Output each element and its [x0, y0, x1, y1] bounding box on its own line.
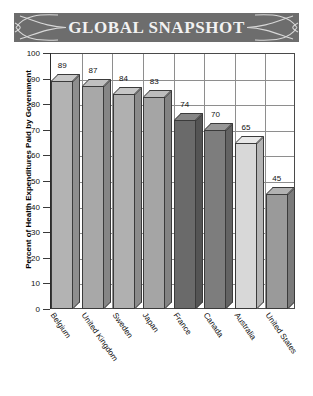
x-axis-label: Belgium — [49, 311, 73, 340]
bar-side-face — [196, 113, 203, 309]
bar[interactable]: 65 — [235, 143, 257, 309]
y-tick-label: 10 — [16, 279, 40, 288]
y-tick-label: 80 — [16, 100, 40, 109]
x-axis-labels: BelgiumUnited KingdomSwedenJapanFranceCa… — [50, 311, 300, 396]
y-tick-label: 30 — [16, 228, 40, 237]
bar-front-face — [113, 94, 135, 309]
bar-front-face — [235, 143, 257, 309]
y-tick-mark — [43, 104, 50, 105]
bar-side-face — [288, 187, 295, 309]
bar-value-label: 84 — [119, 74, 128, 83]
bar[interactable]: 70 — [204, 130, 226, 309]
y-tick-label: 50 — [16, 177, 40, 186]
chart-container: Percent of Health Expenditures Paid by G… — [0, 47, 313, 396]
bar-front-face — [266, 194, 288, 309]
y-tick-mark — [43, 232, 50, 233]
bar-value-label: 70 — [211, 110, 220, 119]
bar-value-label: 45 — [272, 174, 281, 183]
y-tick-mark — [43, 181, 50, 182]
y-tick-mark — [43, 79, 50, 80]
x-axis-label: Japan — [141, 311, 161, 334]
bar[interactable]: 87 — [82, 86, 104, 309]
bar-front-face — [143, 97, 165, 309]
y-tick-mark — [43, 130, 50, 131]
bar[interactable]: 83 — [143, 97, 165, 309]
bar-series: 8987848374706545 — [50, 53, 295, 309]
global-snapshot-chart-page: GLOBAL SNAPSHOT Percent of Health Expend… — [0, 0, 313, 396]
bar[interactable]: 84 — [113, 94, 135, 309]
bar[interactable]: 89 — [51, 81, 73, 309]
y-tick-mark — [43, 283, 50, 284]
y-tick-label: 100 — [16, 49, 40, 58]
bar-front-face — [82, 86, 104, 309]
x-axis-label: Sweden — [110, 311, 134, 340]
y-tick-mark — [43, 258, 50, 259]
y-tick-label: 40 — [16, 202, 40, 211]
bar-side-face — [165, 90, 172, 309]
y-axis-tick-labels: 100 90 80 70 60 50 40 30 20 10 0 — [12, 53, 40, 309]
x-axis-label: United States — [263, 311, 298, 356]
bar-front-face — [204, 130, 226, 309]
bar-value-label: 87 — [88, 66, 97, 75]
bar-side-face — [73, 74, 80, 309]
x-axis-label: Australia — [233, 311, 258, 342]
bar-value-label: 83 — [150, 77, 159, 86]
bar-front-face — [51, 81, 73, 309]
y-tick-label: 0 — [16, 305, 40, 314]
bar-value-label: 89 — [58, 61, 67, 70]
banner-header: GLOBAL SNAPSHOT — [14, 13, 299, 42]
y-tick-label: 20 — [16, 253, 40, 262]
y-tick-mark — [43, 207, 50, 208]
bar-value-label: 65 — [242, 123, 251, 132]
bar-front-face — [174, 120, 196, 309]
bar-side-face — [226, 123, 233, 309]
y-tick-label: 70 — [16, 125, 40, 134]
bar-side-face — [135, 87, 142, 309]
y-tick-label: 60 — [16, 151, 40, 160]
bar[interactable]: 45 — [266, 194, 288, 309]
bar-side-face — [257, 136, 264, 309]
banner-title: GLOBAL SNAPSHOT — [14, 13, 299, 42]
bar-side-face — [104, 79, 111, 309]
bar-value-label: 74 — [180, 100, 189, 109]
x-axis-label: France — [171, 311, 193, 337]
y-tick-mark — [43, 53, 50, 54]
bar[interactable]: 74 — [174, 120, 196, 309]
y-tick-mark — [43, 155, 50, 156]
y-tick-label: 90 — [16, 74, 40, 83]
y-tick-mark — [43, 309, 50, 310]
x-axis-label: Canada — [202, 311, 225, 339]
